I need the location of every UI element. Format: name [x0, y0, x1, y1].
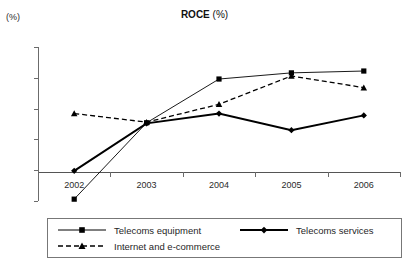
legend-key-marker	[261, 227, 268, 234]
legend-item-label: Telecoms services	[296, 225, 374, 236]
series-layer	[38, 47, 400, 201]
series-marker	[216, 110, 222, 116]
legend-item[interactable]: Telecoms services	[238, 224, 374, 236]
x-tick-mark	[400, 172, 401, 177]
series-marker	[216, 76, 221, 81]
legend-key-marker	[79, 227, 85, 233]
chart-legend: Telecoms equipmentTelecoms servicesInter…	[47, 218, 402, 258]
chart-title: ROCE (%)	[0, 9, 409, 20]
y-tick-mark	[34, 201, 38, 202]
series-line	[74, 71, 364, 199]
legend-swatch-icon	[238, 224, 290, 236]
series-marker	[288, 127, 294, 133]
footer-cropped-text	[0, 262, 409, 268]
series-line	[74, 114, 364, 171]
chart-title-main: ROCE	[181, 9, 210, 20]
series-marker	[361, 112, 367, 118]
series-marker	[361, 68, 366, 73]
series-marker	[216, 101, 223, 107]
plot-area: -505101520 20022003200420052006	[38, 47, 400, 201]
chart-title-suffix: (%)	[210, 9, 228, 20]
series-marker	[72, 197, 77, 202]
legend-swatch-icon	[56, 224, 108, 236]
legend-item[interactable]: Telecoms equipment	[56, 224, 201, 236]
legend-item-label: Telecoms equipment	[114, 225, 201, 236]
chart-figure: (%) ROCE (%) -505101520 2002200320042005…	[0, 0, 409, 268]
legend-item[interactable]: Internet and e-commerce	[56, 240, 220, 252]
legend-item-label: Internet and e-commerce	[114, 241, 220, 252]
legend-swatch-icon	[56, 240, 108, 252]
